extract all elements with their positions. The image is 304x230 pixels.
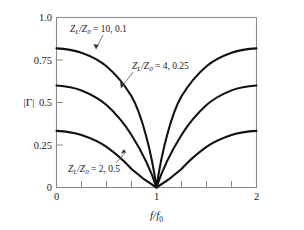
y-tick-label-0.75: 0.75 (34, 55, 52, 66)
chart-figure: 1.0 0.75 0.5 0.25 0 0 1 2 |Γ| f/f0 ZL/Z0… (0, 0, 304, 230)
annotation-3-suffix: = 2, 0.5 (89, 164, 121, 174)
annotation-2-suffix: = 4, 0.25 (153, 61, 189, 71)
chart-canvas: 1.0 0.75 0.5 0.25 0 0 1 2 |Γ| f/f0 ZL/Z0… (0, 0, 304, 230)
x-tick-label-2: 2 (254, 191, 259, 202)
x-tick-label-1: 1 (154, 191, 159, 202)
annotation-curve-3: ZL/Z0 = 2, 0.5 (68, 164, 120, 176)
y-tick-label-0.5: 0.5 (39, 97, 52, 108)
y-axis-title: |Γ| (24, 96, 35, 108)
x-tick-label-0: 0 (54, 191, 59, 202)
y-tick-label-0.25: 0.25 (34, 140, 52, 151)
annotation-curve-1-leader (93, 35, 103, 49)
plot-frame (57, 18, 257, 188)
x-axis-title: f/f0 (150, 209, 163, 224)
x-axis-title-sub: 0 (159, 215, 163, 224)
y-axis-ticks (57, 18, 64, 188)
annotation-curve-2-leader (120, 72, 133, 88)
annotation-curve-2: ZL/Z0 = 4, 0.25 (132, 61, 189, 73)
annotation-curve-1: ZL/Z0 = 10, 0.1 (70, 24, 127, 36)
y-tick-label-0: 0 (47, 182, 52, 193)
curve-zl-z0-2 (57, 131, 257, 188)
y-tick-label-1.0: 1.0 (39, 12, 52, 23)
annotation-1-suffix: = 10, 0.1 (91, 24, 127, 34)
